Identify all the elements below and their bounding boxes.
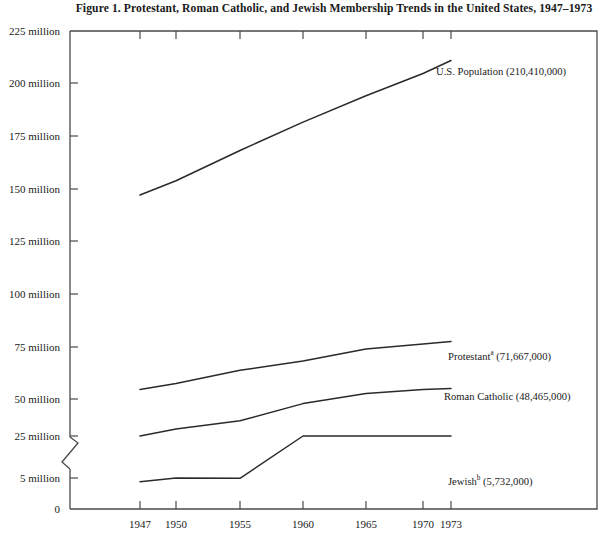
- figure-container: Figure 1. Protestant, Roman Catholic, an…: [0, 0, 610, 551]
- series-label-protestant-name: Protestant: [448, 351, 490, 362]
- series-line-protestant: [140, 342, 451, 390]
- x-axis-ticks-bottom: [140, 501, 451, 509]
- y-tick-label-5: 5 million: [0, 473, 60, 484]
- y-tick-label-25: 25 million: [0, 431, 60, 442]
- series-label-jewish-value: (5,732,000): [480, 476, 532, 487]
- chart-plot-area: [0, 0, 610, 551]
- y-tick-label-200: 200 million: [0, 78, 60, 89]
- series-label-us-population: U.S. Population (210,410,000): [436, 66, 566, 78]
- series-line-roman-catholic: [140, 389, 451, 437]
- y-axis-ticks: [70, 83, 78, 478]
- y-tick-label-150: 150 million: [0, 184, 60, 195]
- x-tick-label-1973: 1973: [426, 519, 476, 530]
- series-label-protestant: Protestanta (71,667,000): [448, 351, 551, 363]
- x-axis-ticks-top: [140, 31, 451, 39]
- series-line-us-population: [140, 61, 451, 196]
- series-label-roman-catholic: Roman Catholic (48,465,000): [444, 391, 571, 403]
- series-label-jewish: Jewishb (5,732,000): [448, 476, 533, 488]
- y-tick-label-175: 175 million: [0, 131, 60, 142]
- y-tick-label-75: 75 million: [0, 342, 60, 353]
- x-tick-label-1960: 1960: [278, 519, 328, 530]
- x-tick-label-1965: 1965: [341, 519, 391, 530]
- y-tick-label-50: 50 million: [0, 394, 60, 405]
- x-tick-label-1955: 1955: [215, 519, 265, 530]
- series-line-jewish: [140, 436, 451, 482]
- x-tick-label-1950: 1950: [151, 519, 201, 530]
- y-tick-label-225: 225 million: [0, 26, 60, 37]
- plot-frame: [62, 31, 597, 509]
- y-tick-label-125: 125 million: [0, 236, 60, 247]
- y-tick-label-100: 100 million: [0, 289, 60, 300]
- data-series-group: [140, 61, 451, 482]
- series-label-protestant-value: (71,667,000): [494, 351, 551, 362]
- series-label-jewish-name: Jewish: [448, 476, 477, 487]
- y-tick-label-0: 0: [0, 504, 60, 515]
